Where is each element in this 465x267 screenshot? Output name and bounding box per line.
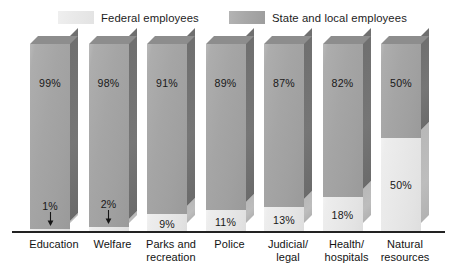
category-label: Naturalresources [370,238,440,263]
bar-group: 89%11% [206,36,254,231]
bar-top-face [206,36,254,44]
bar-side-face [421,28,429,223]
bar-group: 98%2% [89,36,137,231]
bar-group: 99%1% [30,36,78,231]
bar-front-face [381,44,421,231]
bar-group: 50%50% [381,36,429,231]
plot-area: 99%1%98%2%91%9%89%11%87%13%82%18%50%50% [0,0,465,267]
bar-segment-state [89,44,129,227]
bar-group: 87%13% [264,36,312,231]
bar-front-face [89,44,129,231]
bar-side-face [129,28,137,223]
bar-top-face [264,36,312,44]
bar-side-face [363,28,371,223]
bar-segment-federal [323,197,363,231]
bar-front-face [30,44,70,231]
bar-segment-state [264,44,304,207]
bar-top-face [147,36,195,44]
bar-front-face [323,44,363,231]
bar-group: 82%18% [323,36,371,231]
bar-side-face [246,28,254,223]
bar-segment-state [381,44,421,138]
bar-top-face [89,36,137,44]
bar-side-face [70,28,78,223]
bar-top-face [323,36,371,44]
bar-top-face [381,36,429,44]
bar-front-face [147,44,187,231]
bar-segment-federal [381,138,421,232]
bar-front-face [264,44,304,231]
bar-segment-state [30,44,70,229]
bar-side-face [187,28,195,223]
bar-segment-federal [206,210,246,231]
bar-side-face [304,28,312,223]
bar-segment-federal [147,214,187,231]
bar-top-face [30,36,78,44]
bar-segment-federal [264,207,304,231]
bar-segment-state [206,44,246,210]
axis-baseline [12,231,445,233]
stacked-bar-chart: Federal employees State and local employ… [0,0,465,267]
bar-segment-state [147,44,187,214]
bar-segment-state [323,44,363,197]
bar-front-face [206,44,246,231]
bar-group: 91%9% [147,36,195,231]
